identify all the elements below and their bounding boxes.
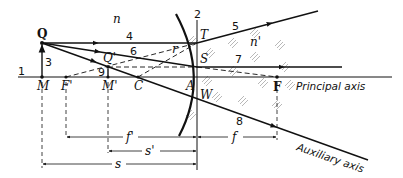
- label-n-prime: n': [250, 35, 261, 49]
- dimension-lines: [43, 137, 276, 164]
- label-M-prime: M': [101, 79, 118, 93]
- ray-number-4: 4: [126, 30, 133, 43]
- auxiliary-axis-label: Auxiliary axis: [294, 140, 366, 175]
- label-M: M: [36, 79, 50, 93]
- spherical-refracting-surface-diagram: n n' Q Q' M F' M' C A F T S W r 1 2 3 4 …: [0, 0, 403, 178]
- dim-f-prime: f': [125, 130, 134, 144]
- principal-axis-label: Principal axis: [296, 80, 366, 92]
- ray-number-2: 2: [194, 8, 201, 21]
- ray-number-6: 6: [130, 45, 137, 58]
- ray-number-1: 1: [18, 65, 25, 78]
- label-C: C: [134, 79, 143, 93]
- label-A: A: [185, 79, 195, 93]
- dim-s-prime: s': [145, 144, 154, 158]
- label-T: T: [200, 28, 209, 42]
- ray-number-9: 9: [98, 66, 105, 79]
- ray-number-7: 7: [235, 53, 242, 66]
- label-Q-prime: Q': [103, 51, 116, 65]
- ray-number-5: 5: [232, 20, 239, 33]
- ray-number-8: 8: [236, 115, 243, 128]
- dim-f: f: [231, 130, 239, 144]
- label-F-prime: F': [60, 79, 73, 93]
- label-S: S: [200, 52, 208, 66]
- label-n: n: [113, 12, 121, 26]
- dim-s: s: [115, 157, 121, 171]
- label-angle-r: r: [172, 42, 179, 56]
- refracting-surface: [176, 14, 194, 136]
- label-F: F: [273, 80, 282, 94]
- ray-number-3: 3: [45, 56, 52, 69]
- label-Q: Q: [37, 27, 47, 41]
- label-W: W: [200, 88, 214, 102]
